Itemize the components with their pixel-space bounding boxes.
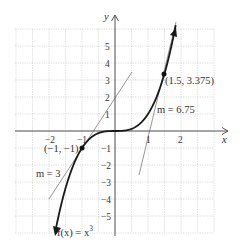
tangent-line-m3 [49,72,132,199]
y-tick-neg3: −3 [101,178,111,188]
slope-label-m3: m = 3 [36,168,61,179]
y-tick-1: 1 [105,110,110,120]
x-tick-1: 1 [146,135,151,145]
y-tick-2: 2 [105,93,110,103]
slope-label-m675: m = 6.75 [157,104,195,115]
point-neg1 [80,146,85,151]
x-axis-label: x [221,134,227,145]
point-label-1-5: (1.5, 3.375) [165,75,214,87]
point-label-neg1: (−1, −1) [44,143,79,155]
y-tick-neg1: −1 [101,144,111,154]
tangent-line-m675 [139,22,176,175]
y-axis-label: y [103,11,109,22]
cubic-tangent-chart: x y −2 −1 1 2 5 4 3 2 1 −1 −2 −3 −4 −5 (… [0,0,245,241]
function-label: f(x) = x3 [57,224,93,239]
y-tick-4: 4 [105,59,110,69]
y-tick-3: 3 [105,76,110,86]
y-tick-neg2: −2 [101,161,111,171]
y-tick-neg5: −5 [101,212,111,222]
x-tick-2: 2 [178,135,183,145]
y-tick-neg4: −4 [101,195,111,205]
y-tick-5: 5 [105,42,110,52]
